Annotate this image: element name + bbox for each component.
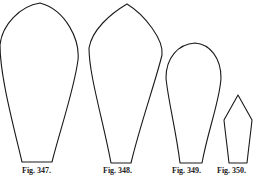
fig-347-outline [0, 3, 78, 162]
fig-350-caption: Fig. 350. [217, 166, 246, 175]
fig-349-caption: Fig. 349. [172, 166, 201, 175]
fig-348-caption: Fig. 348. [103, 166, 132, 175]
figure-shapes [0, 0, 261, 182]
fig-349-outline [166, 43, 221, 163]
fig-348-outline [89, 4, 162, 163]
fig-347-caption: Fig. 347. [22, 166, 51, 175]
fig-350-outline [224, 95, 252, 163]
